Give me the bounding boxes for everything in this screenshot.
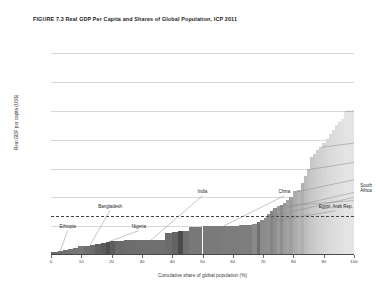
x-axis-tick <box>112 255 113 258</box>
bar <box>115 241 124 255</box>
world-average-line <box>51 216 354 217</box>
x-axis-tick-label: 80 <box>291 259 296 264</box>
country-annotation: Nigeria <box>132 224 146 229</box>
country-annotation: Ethiopia <box>60 224 76 229</box>
leader-line <box>60 231 68 252</box>
bar <box>203 226 221 255</box>
bar <box>239 225 253 255</box>
x-axis-tick <box>51 255 52 258</box>
x-axis-tick-label: 60 <box>230 259 235 264</box>
plot-area: EthiopiaBangladeshNigeriaIndiaChinaEgypt… <box>51 39 354 255</box>
leader-line <box>345 101 354 112</box>
x-axis-tick <box>263 255 264 258</box>
x-axis-tick <box>172 255 173 258</box>
x-axis-tick <box>203 255 204 258</box>
bar <box>136 240 151 255</box>
x-axis-tick-label: 90 <box>321 259 326 264</box>
bar <box>344 112 354 255</box>
country-annotation: Egypt, Arab Rep. <box>319 204 353 209</box>
x-axis-title: Cumulative share of global population (%… <box>51 273 354 278</box>
x-axis-tick-label: 100 <box>350 259 357 264</box>
x-axis-tick-label: 0 <box>50 259 52 264</box>
gridline <box>51 82 354 83</box>
x-axis-tick <box>293 255 294 258</box>
x-axis-tick-label: 50 <box>200 259 205 264</box>
x-axis-tick-label: 70 <box>261 259 266 264</box>
figure-container: FIGURE 7.3 Real GDP Per Capita and Share… <box>0 0 376 298</box>
x-axis-tick <box>81 255 82 258</box>
bar <box>221 226 239 255</box>
country-annotation: India <box>198 189 208 194</box>
gridline <box>51 140 354 141</box>
bar <box>165 233 173 255</box>
country-annotation: Bangladesh <box>98 204 122 209</box>
x-axis-tick-label: 10 <box>79 259 84 264</box>
country-annotation: China <box>278 189 290 194</box>
bar <box>189 227 203 256</box>
x-axis-tick-label: 30 <box>139 259 144 264</box>
x-axis-tick <box>324 255 325 258</box>
x-axis-tick <box>354 255 355 258</box>
gridline <box>51 111 354 112</box>
bar <box>124 240 136 255</box>
x-axis-tick <box>233 255 234 258</box>
gridline <box>51 53 354 54</box>
x-axis-tick-label: 40 <box>170 259 175 264</box>
bar <box>151 240 165 255</box>
figure-title: FIGURE 7.3 Real GDP Per Capita and Share… <box>33 16 237 22</box>
x-axis-tick <box>142 255 143 258</box>
y-axis-title: Real GDP per capita (US$) <box>14 95 19 150</box>
x-axis-tick-label: 20 <box>109 259 114 264</box>
country-annotation: SouthAfrica <box>360 183 372 193</box>
